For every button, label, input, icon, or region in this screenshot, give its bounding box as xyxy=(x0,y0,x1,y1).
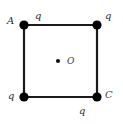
vertex-dot-bottom-right xyxy=(92,92,101,101)
charge-label-top-right: q xyxy=(105,11,111,21)
charge-label-bottom: q xyxy=(79,106,85,116)
vertex-label-A: A xyxy=(7,16,14,26)
charge-square-diagram: A q q O q C q xyxy=(0,0,123,124)
vertex-dot-bottom-left xyxy=(19,92,28,101)
center-dot xyxy=(56,59,60,63)
vertex-dot-top-right xyxy=(92,20,101,29)
vertex-dot-top-left xyxy=(19,20,28,29)
charge-label-bottom-left: q xyxy=(8,91,14,101)
charge-label-top: q xyxy=(35,11,41,21)
vertex-label-C: C xyxy=(105,90,113,100)
center-label-O: O xyxy=(67,56,74,66)
